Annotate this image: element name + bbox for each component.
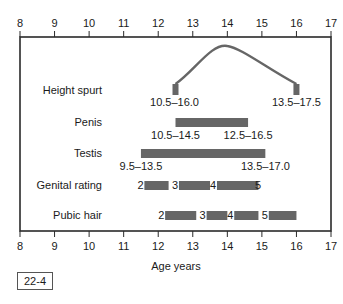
stage-bar	[179, 181, 210, 190]
stage-label: 3	[172, 179, 178, 191]
stage-label: 3	[200, 209, 206, 221]
tick-label: 9	[51, 17, 57, 29]
row-penis: Penis10.5–14.512.5–16.5	[74, 116, 272, 141]
range-bar	[141, 149, 265, 158]
tick-label: 13	[187, 240, 199, 252]
row-label: Testis	[74, 147, 103, 159]
row-label: Height spurt	[43, 84, 102, 96]
onset-range-label: 10.5–16.0	[150, 96, 199, 108]
tick-label: 16	[290, 17, 302, 29]
stage-label: 4	[227, 209, 233, 221]
row-label: Genital rating	[37, 179, 102, 191]
tick-label: 10	[83, 240, 95, 252]
stage-bar	[165, 211, 196, 220]
plot-rows: Height spurt10.5–16.013.5–17.5Penis10.5–…	[37, 46, 321, 221]
tick-label: 14	[221, 240, 233, 252]
end-range-label: 13.5–17.0	[241, 160, 290, 172]
end-range-label: 13.5–17.5	[272, 96, 321, 108]
row-genital-rating: Genital rating2345	[37, 179, 261, 191]
tick-label: 17	[325, 17, 337, 29]
onset-range-label: 10.5–14.5	[151, 129, 200, 141]
height-velocity-curve	[176, 46, 297, 84]
tick-label: 13	[187, 17, 199, 29]
tick-label: 16	[290, 240, 302, 252]
tick-label: 17	[325, 240, 337, 252]
end-range-label: 12.5–16.5	[224, 129, 273, 141]
tick-label: 12	[152, 17, 164, 29]
tick-label: 8	[17, 240, 23, 252]
onset-range-label: 9.5–13.5	[120, 160, 163, 172]
x-axis-title: Age years	[151, 260, 201, 272]
range-bar	[176, 118, 249, 127]
puberty-timeline-chart: 891011121314151617 891011121314151617 He…	[0, 0, 343, 304]
stage-bar	[217, 181, 258, 190]
tick-label: 15	[256, 17, 268, 29]
stage-bar	[207, 211, 228, 220]
tick-label: 8	[17, 17, 23, 29]
stage-label: 2	[137, 179, 143, 191]
onset-marker	[173, 84, 179, 95]
tick-label: 14	[221, 17, 233, 29]
bottom-axis: 891011121314151617	[17, 231, 337, 252]
row-pubic-hair: Pubic hair2345	[53, 209, 296, 221]
tick-label: 10	[83, 17, 95, 29]
stage-bar	[234, 211, 258, 220]
figure-number-box: 22-4	[17, 272, 53, 290]
tick-label: 11	[118, 240, 129, 252]
top-axis: 891011121314151617	[17, 17, 337, 37]
tick-label: 15	[256, 240, 268, 252]
row-testis: Testis9.5–13.513.5–17.0	[74, 147, 290, 172]
row-label: Penis	[74, 116, 102, 128]
tick-label: 12	[152, 240, 164, 252]
stage-label: 5	[255, 179, 261, 191]
end-marker	[293, 84, 299, 95]
stage-label: 4	[210, 179, 216, 191]
row-label: Pubic hair	[53, 209, 102, 221]
stage-bar	[144, 181, 168, 190]
stage-label: 2	[158, 209, 164, 221]
tick-label: 9	[51, 240, 57, 252]
tick-label: 11	[118, 17, 129, 29]
stage-label: 5	[262, 209, 268, 221]
row-height-spurt: Height spurt10.5–16.013.5–17.5	[43, 46, 321, 108]
stage-bar	[269, 211, 297, 220]
